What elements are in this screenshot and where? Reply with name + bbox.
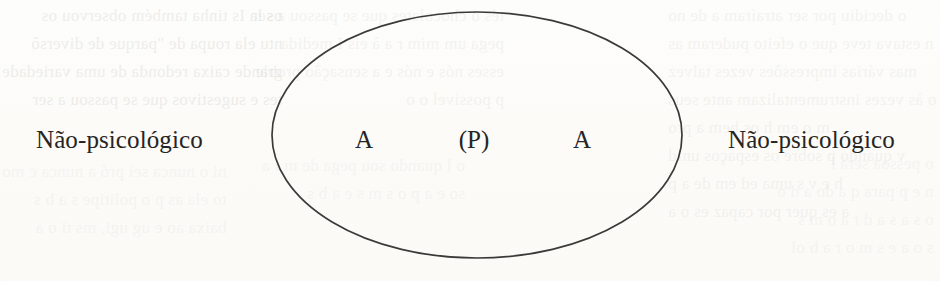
scanned-page: os la Is tinha também observou os ntu el… — [0, 0, 940, 281]
label-outer-right: Não-psicológico — [728, 126, 895, 154]
symbol-a-left: A — [344, 126, 384, 154]
symbol-p-center: (P) — [448, 126, 500, 154]
symbol-a-right: A — [562, 126, 602, 154]
label-outer-left: Não-psicológico — [36, 126, 203, 154]
